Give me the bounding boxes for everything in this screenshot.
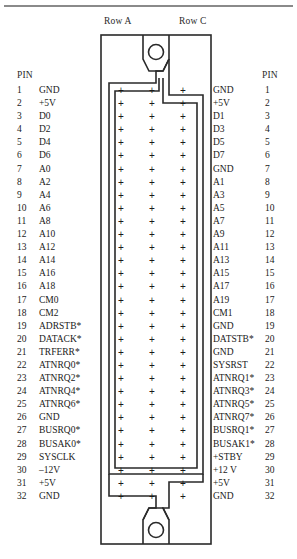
pin-number: 3 <box>17 110 39 123</box>
table-row: 13A12 <box>17 241 95 254</box>
table-row: ATNRQ5*25 <box>213 398 287 411</box>
pin-number: 20 <box>265 333 287 346</box>
pin-signal-name: ATNRQ7* <box>213 411 265 424</box>
pin-number: 32 <box>265 490 287 503</box>
pin-number: 21 <box>17 346 39 359</box>
table-row: 18CM2 <box>17 307 95 320</box>
connector-body-drawing <box>99 33 213 546</box>
pin-signal-name: A7 <box>213 215 265 228</box>
table-row: ATNRQ7*26 <box>213 411 287 424</box>
pin-signal-name: A12 <box>39 241 95 254</box>
pin-signal-name: GND <box>213 490 265 503</box>
table-row: A1716 <box>213 280 287 293</box>
table-row: SYSRST22 <box>213 359 287 372</box>
pin-number: 14 <box>265 254 287 267</box>
table-row: 15A16 <box>17 267 95 280</box>
pin-signal-name: –12V <box>39 464 95 477</box>
right-pin-table: GND1+5V2D13D34D55D76GND7A18A39A510A711A9… <box>213 84 287 503</box>
pin-signal-name: ATNRQ0* <box>39 359 95 372</box>
table-row: 10A6 <box>17 202 95 215</box>
table-row: 28BUSAK0* <box>17 438 95 451</box>
table-row: +12 V30 <box>213 464 287 477</box>
pin-signal-name: ATNRQ2* <box>39 372 95 385</box>
pin-number: 5 <box>265 136 287 149</box>
table-row: 6D6 <box>17 149 95 162</box>
pin-signal-name: CM0 <box>39 294 95 307</box>
pin-signal-name: +5V <box>213 97 265 110</box>
table-row: CM118 <box>213 307 287 320</box>
pin-signal-name: A19 <box>213 294 265 307</box>
pin-number: 17 <box>17 294 39 307</box>
pin-number: 29 <box>17 451 39 464</box>
pin-number: 30 <box>265 464 287 477</box>
table-row: 9A4 <box>17 189 95 202</box>
pin-signal-name: GND <box>39 84 95 97</box>
pin-number: 2 <box>265 97 287 110</box>
pin-signal-name: A14 <box>39 254 95 267</box>
table-row: D55 <box>213 136 287 149</box>
table-row: 4D2 <box>17 123 95 136</box>
pin-heading-right: PIN <box>262 70 278 80</box>
table-row: 20DATACK* <box>17 333 95 346</box>
pin-number: 27 <box>265 424 287 437</box>
pin-number: 16 <box>265 280 287 293</box>
pin-number: 18 <box>265 307 287 320</box>
table-row: A510 <box>213 202 287 215</box>
pin-number: 8 <box>17 176 39 189</box>
pin-signal-name: ATNRQ1* <box>213 372 265 385</box>
pin-signal-name: ATNRQ4* <box>39 385 95 398</box>
pin-number: 18 <box>17 307 39 320</box>
pin-number: 10 <box>17 202 39 215</box>
pin-signal-name: +5V <box>213 477 265 490</box>
pin-signal-name: BUSAK1* <box>213 438 265 451</box>
pin-signal-name: BUSRQ1* <box>213 424 265 437</box>
pin-signal-name: BUSRQ0* <box>39 424 95 437</box>
pin-number: 7 <box>17 163 39 176</box>
pin-signal-name: D0 <box>39 110 95 123</box>
table-row: GND21 <box>213 346 287 359</box>
pin-number: 23 <box>17 372 39 385</box>
table-row: 30–12V <box>17 464 95 477</box>
pin-number: 1 <box>265 84 287 97</box>
pin-signal-name: SYSRST <box>213 359 265 372</box>
pin-signal-name: +12 V <box>213 464 265 477</box>
table-row: A1515 <box>213 267 287 280</box>
pin-number: 9 <box>265 189 287 202</box>
table-row: 2+5V <box>17 97 95 110</box>
pin-number: 6 <box>265 149 287 162</box>
pin-signal-name: A3 <box>213 189 265 202</box>
table-row: 23ATNRQ2* <box>17 372 95 385</box>
table-row: A39 <box>213 189 287 202</box>
pin-number: 25 <box>17 398 39 411</box>
table-row: 32GND <box>17 490 95 503</box>
table-row: 12A10 <box>17 228 95 241</box>
pin-signal-name: A1 <box>213 176 265 189</box>
row-a-header-label: Row A <box>104 16 132 26</box>
pin-number: 19 <box>17 320 39 333</box>
pin-signal-name: ATNRQ3* <box>213 385 265 398</box>
pin-signal-name: A15 <box>213 267 265 280</box>
pin-number: 29 <box>265 451 287 464</box>
table-row: BUSRQ1*27 <box>213 424 287 437</box>
pin-number: 20 <box>17 333 39 346</box>
table-row: 27BUSRQ0* <box>17 424 95 437</box>
pin-signal-name: A18 <box>39 280 95 293</box>
table-row: 24ATNRQ4* <box>17 385 95 398</box>
pin-signal-name: BUSAK0* <box>39 438 95 451</box>
pin-number: 31 <box>265 477 287 490</box>
pin-number: 27 <box>17 424 39 437</box>
pin-signal-name: DATACK* <box>39 333 95 346</box>
table-row: A912 <box>213 228 287 241</box>
table-row: 22ATNRQ0* <box>17 359 95 372</box>
pin-signal-name: CM2 <box>39 307 95 320</box>
table-row: +5V31 <box>213 477 287 490</box>
table-row: 25ATNRQ6* <box>17 398 95 411</box>
pin-signal-name: GND <box>213 320 265 333</box>
pin-signal-name: D5 <box>213 136 265 149</box>
pin-number: 26 <box>265 411 287 424</box>
pin-signal-name: DATSTB* <box>213 333 265 346</box>
table-row: 3D0 <box>17 110 95 123</box>
table-row: 8A2 <box>17 176 95 189</box>
table-row: 19ADRSTB* <box>17 320 95 333</box>
table-row: 31+5V <box>17 477 95 490</box>
